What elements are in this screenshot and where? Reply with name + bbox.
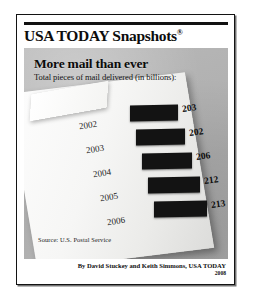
brand-title: USA TODAY Snapshots®: [24, 27, 230, 45]
registered-trademark-icon: ®: [177, 28, 183, 37]
bar-2002: [130, 105, 178, 122]
table-row: [136, 129, 185, 145]
brand-title-text: USA TODAY Snapshots: [24, 27, 177, 44]
bar-2006: [154, 201, 207, 218]
table-row: [130, 105, 178, 121]
bar-value-2004: 206: [195, 150, 211, 162]
table-row: [154, 201, 207, 217]
chart-photo-panel: More mail than ever Total pieces of mail…: [24, 48, 228, 259]
bar-value-2003: 202: [188, 126, 204, 138]
usa-today-snapshot-card: USA TODAY Snapshots® More mail than ever…: [16, 14, 235, 285]
bar-value-2006: 213: [210, 198, 226, 210]
table-row: [142, 153, 192, 169]
table-row: [148, 177, 200, 193]
year-label-2004: 2004: [92, 167, 111, 180]
source-attribution: Source: U.S. Postal Service: [38, 236, 111, 243]
byline-year: 2008: [215, 270, 226, 276]
bar-2003: [136, 129, 185, 146]
brand-divider-rule: [24, 22, 228, 25]
bar-2004: [142, 153, 192, 170]
bar-2005: [148, 177, 200, 194]
year-label-2005: 2005: [99, 191, 118, 204]
chart-subhead: Total pieces of mail delivered (in billi…: [34, 72, 224, 82]
year-label-2002: 2002: [78, 119, 97, 132]
chart-headline: More mail than ever: [34, 56, 219, 72]
bar-value-2002: 203: [181, 102, 197, 114]
year-label-2006: 2006: [106, 215, 125, 228]
year-label-2003: 2003: [85, 143, 104, 156]
byline: By David Stuckey and Keith Simmons, USA …: [78, 262, 226, 269]
bar-value-2005: 212: [203, 174, 219, 186]
